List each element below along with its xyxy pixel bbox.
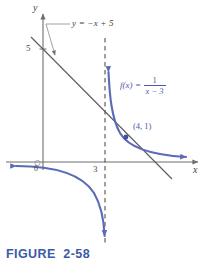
figure-caption: FIGURE 2-58 [6, 247, 90, 261]
x-tick-label-3: 3 [93, 165, 98, 174]
line-y-equals-minus-x-plus-5 [31, 37, 172, 179]
point-4-1-marker [124, 135, 129, 140]
y-tick-label-5: 5 [26, 44, 31, 53]
fraction-numerator: 1 [149, 76, 159, 85]
x-axis-label: x [193, 165, 197, 175]
origin-label: 0 [34, 165, 38, 173]
figure-container: y x 5 3 0 y = −x + 5 (4, 1) f(x) = 1 x −… [0, 0, 207, 269]
equals-sign: = [136, 81, 141, 90]
function-name: f(x) [120, 81, 133, 90]
leader-line-equation [46, 24, 70, 55]
point-coordinate-label: (4, 1) [133, 122, 151, 131]
graph-canvas [0, 0, 207, 269]
curve-left-branch [16, 166, 105, 236]
line-equation-label: y = −x + 5 [72, 19, 114, 28]
fraction: 1 x − 3 [144, 76, 166, 96]
y-axis-label: y [33, 3, 37, 13]
fraction-denominator: x − 3 [144, 87, 166, 96]
function-equation-label: f(x) = 1 x − 3 [120, 76, 166, 96]
